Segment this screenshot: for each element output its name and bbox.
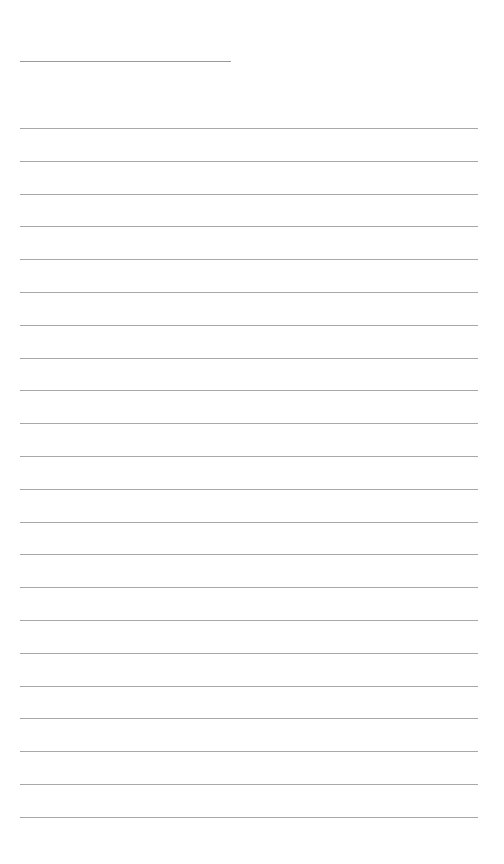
ruled-line [20, 226, 478, 227]
ruled-line [20, 194, 478, 195]
ruled-line [20, 259, 478, 260]
ruled-line [20, 358, 478, 359]
ruled-line [20, 423, 478, 424]
ruled-line [20, 522, 478, 523]
ruled-line [20, 653, 478, 654]
ruled-line [20, 292, 478, 293]
ruled-line [20, 489, 478, 490]
ruled-line [20, 817, 478, 818]
ruled-line [20, 718, 478, 719]
ruled-line [20, 390, 478, 391]
ruled-line [20, 751, 478, 752]
ruled-line [20, 456, 478, 457]
ruled-line [20, 686, 478, 687]
ruled-line [20, 784, 478, 785]
ruled-line [20, 161, 478, 162]
ruled-line [20, 587, 478, 588]
name-line [20, 61, 231, 62]
ruled-line [20, 554, 478, 555]
ruled-line [20, 325, 478, 326]
ruled-line [20, 620, 478, 621]
ruled-line [20, 128, 478, 129]
